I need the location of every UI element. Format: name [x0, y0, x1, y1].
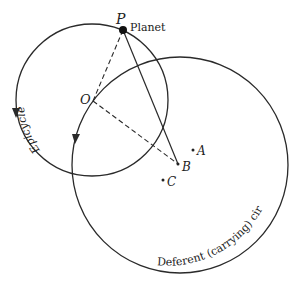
epicycle-circle [16, 24, 168, 176]
point-A [192, 149, 195, 152]
label-O: O [80, 92, 91, 107]
deferent-arrow-icon [72, 134, 80, 144]
label-A: A [196, 144, 206, 158]
deferent-circle [72, 57, 288, 273]
label-B: B [181, 160, 191, 174]
epicycle-diagram: P Planet O A B C Epicycle Deferent (carr… [0, 0, 293, 282]
point-C [162, 179, 165, 182]
planet-dot [119, 26, 127, 34]
label-deferent: Deferent (carrying) circle [0, 0, 266, 269]
line-O-P [93, 30, 123, 101]
line-P-B [123, 30, 178, 164]
label-planet: Planet [130, 21, 166, 34]
label-epicycle: Epicycle [14, 106, 43, 157]
label-C: C [167, 175, 176, 189]
point-B [177, 163, 180, 166]
label-P: P [115, 11, 126, 27]
